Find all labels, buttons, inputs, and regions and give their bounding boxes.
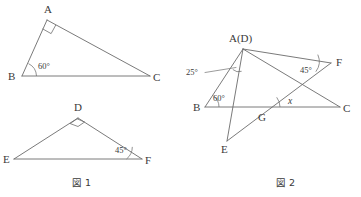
- figure-2-caption: 図 2: [276, 177, 295, 188]
- angle-arc-f-45: [316, 55, 319, 72]
- angle-arc-f: [127, 147, 133, 159]
- angle-arc-b: [29, 64, 37, 76]
- vertex-label-b-fig2: B: [193, 101, 200, 113]
- figure-1-triangle-def: D E F 45° 図 1: [3, 101, 151, 188]
- vertex-label-d: D: [74, 101, 82, 113]
- vertex-label-g: G: [258, 111, 266, 123]
- vertex-label-f: F: [145, 154, 151, 166]
- angle-label-f-45: 45°: [115, 145, 127, 155]
- segment-ad-e: [227, 49, 243, 141]
- segment-f-d: [78, 118, 142, 159]
- angle-label-b-60-fig2: 60°: [213, 93, 225, 103]
- figure-1-caption: 図 1: [72, 177, 91, 188]
- segment-ad-f: [243, 49, 331, 63]
- vertex-label-e-fig2: E: [221, 143, 228, 155]
- segment-d-e: [14, 118, 78, 159]
- geometry-canvas: A B C 60° D E F 45° 図 1: [0, 0, 361, 197]
- vertex-label-b: B: [8, 70, 15, 82]
- vertex-label-a: A: [44, 3, 52, 15]
- vertex-label-f-fig2: F: [336, 56, 342, 68]
- vertex-label-c: C: [153, 71, 160, 83]
- right-angle-mark-d: [70, 119, 84, 127]
- angle-arc-25: [233, 70, 242, 72]
- leader-line-25: [205, 68, 236, 73]
- vertex-label-c-fig2: C: [343, 102, 350, 114]
- vertex-label-e: E: [3, 153, 10, 165]
- angle-label-f-45-fig2: 45°: [300, 65, 312, 75]
- angle-label-x: x: [287, 96, 293, 106]
- vertex-label-ad: A(D): [229, 32, 253, 45]
- figure-1-triangle-abc: A B C 60°: [8, 3, 160, 83]
- figure-2-overlapped: A(D) B C E F G 25° 60° 45° x 図 2: [186, 32, 350, 188]
- geometry-figure-page: A B C 60° D E F 45° 図 1: [0, 0, 361, 197]
- angle-label-b-60: 60°: [38, 61, 50, 71]
- angle-label-25: 25°: [186, 67, 198, 77]
- segment-c-a: [47, 20, 150, 76]
